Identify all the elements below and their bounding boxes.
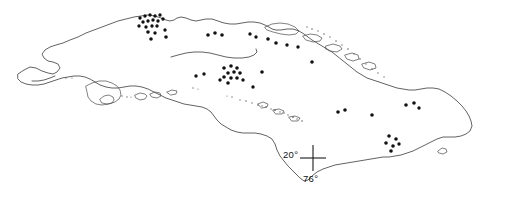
- locality-dot: [412, 101, 416, 105]
- key-speck: [231, 96, 232, 97]
- locality-dot: [285, 43, 288, 46]
- key-speck: [226, 95, 227, 96]
- cuba-coastline: [18, 15, 472, 181]
- key-speck: [283, 112, 285, 114]
- locality-dot: [155, 24, 158, 27]
- key-speck: [383, 76, 384, 77]
- island-key-outline: [345, 53, 359, 61]
- cuba-locality-map: 20° 76°: [0, 0, 518, 206]
- offshore-keys: [86, 23, 447, 154]
- island-key-outline: [326, 44, 342, 52]
- locality-dot: [202, 72, 205, 75]
- coastline-segment: [171, 49, 257, 58]
- key-speck: [279, 111, 280, 112]
- key-speck: [353, 53, 354, 54]
- locality-dot: [226, 81, 230, 85]
- locality-dot: [391, 144, 395, 148]
- locality-dot: [229, 64, 233, 68]
- island-key-outline: [167, 90, 177, 95]
- key-speck: [365, 63, 366, 64]
- island-key-outline: [303, 34, 322, 42]
- key-speck: [257, 104, 259, 106]
- locality-dot: [387, 134, 391, 138]
- island-key-outline: [100, 95, 114, 104]
- locality-dot: [222, 75, 226, 79]
- locality-dot: [156, 19, 159, 22]
- locality-dot: [310, 60, 314, 64]
- key-speck: [301, 120, 303, 122]
- locality-dot: [274, 41, 278, 45]
- key-speck: [377, 72, 378, 73]
- key-speck: [274, 109, 276, 111]
- locality-dot: [404, 103, 408, 107]
- locality-dot: [384, 141, 388, 145]
- key-speck: [292, 116, 294, 118]
- locality-dot: [150, 24, 153, 27]
- locality-dot: [232, 70, 236, 74]
- locality-dot: [343, 108, 347, 112]
- locality-dot: [141, 20, 144, 23]
- locality-dot: [138, 16, 141, 19]
- key-speck: [130, 96, 131, 97]
- locality-dot: [222, 66, 226, 70]
- locality-dot: [206, 33, 210, 37]
- locality-dot: [394, 137, 398, 141]
- coastline-segment: [18, 15, 472, 181]
- key-specks: [65, 26, 384, 122]
- island-key-outline: [86, 81, 121, 105]
- locality-dot: [143, 14, 146, 17]
- key-speck: [126, 96, 127, 97]
- locality-dot: [213, 31, 217, 35]
- locality-dot: [146, 19, 149, 22]
- locality-dot: [251, 85, 254, 88]
- key-speck: [121, 95, 122, 96]
- latitude-label: 20°: [283, 149, 298, 160]
- map-canvas: [0, 0, 518, 206]
- longitude-label: 76°: [303, 173, 318, 184]
- locality-dot: [266, 37, 270, 41]
- locality-dot: [194, 74, 197, 77]
- locality-dot: [144, 25, 147, 28]
- island-key-outline: [438, 148, 447, 154]
- key-speck: [239, 99, 240, 100]
- locality-dot: [238, 71, 242, 75]
- key-speck: [261, 105, 262, 106]
- locality-dot: [158, 13, 161, 16]
- key-speck: [265, 106, 267, 108]
- locality-dot: [336, 110, 340, 114]
- key-speck: [251, 102, 252, 103]
- locality-dots: [137, 13, 420, 153]
- key-speck: [197, 88, 198, 89]
- locality-dot: [370, 113, 374, 117]
- key-speck: [192, 87, 193, 88]
- key-speck: [71, 77, 72, 78]
- key-speck: [359, 58, 361, 60]
- key-speck: [65, 77, 66, 78]
- locality-dot: [235, 76, 239, 80]
- key-speck: [317, 30, 318, 31]
- locality-dot: [260, 70, 264, 74]
- locality-dot: [397, 142, 400, 145]
- key-speck: [371, 68, 373, 70]
- key-speck: [323, 33, 325, 35]
- key-speck: [311, 28, 313, 30]
- locality-dot: [153, 14, 156, 17]
- key-speck: [329, 36, 330, 37]
- key-speck: [270, 108, 271, 109]
- island-key-outline: [135, 93, 147, 100]
- locality-dot: [148, 13, 151, 16]
- key-speck: [341, 44, 342, 45]
- locality-dot: [226, 71, 230, 75]
- locality-dot: [235, 66, 239, 70]
- island-key-outline: [362, 62, 376, 70]
- locality-dot: [164, 35, 168, 39]
- locality-dot: [254, 35, 257, 38]
- locality-dot: [218, 78, 221, 81]
- key-speck: [287, 114, 288, 115]
- locality-dot: [149, 37, 153, 41]
- locality-dot: [417, 106, 420, 109]
- locality-dot: [151, 18, 154, 21]
- coastline-segment: [32, 76, 55, 81]
- locality-dot: [248, 32, 251, 35]
- locality-dot: [146, 30, 150, 34]
